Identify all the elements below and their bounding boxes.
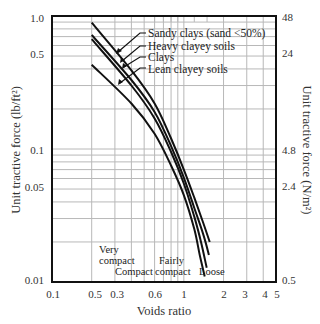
- zone-very-compact-line2: compact: [99, 255, 135, 266]
- y-tick-right: 4.8: [282, 144, 296, 156]
- y-tick-left: 0.01: [25, 274, 44, 286]
- x-tick: 0.6: [148, 288, 162, 300]
- tractive-force-chart: Sandy clays (sand <50%) Heavy clayey soi…: [0, 0, 320, 324]
- y-tick-right: 24: [282, 47, 294, 59]
- zone-very-compact-line1: Very: [99, 244, 120, 255]
- y-tick-right: 2.4: [282, 180, 296, 192]
- x-tick: 5: [274, 288, 280, 300]
- y-tick-left: 1.0: [30, 12, 44, 24]
- leader-sandy-clays: [118, 33, 146, 52]
- zone-fairly-compact-line1: Fairly: [159, 255, 185, 266]
- series-label-sandy-clays: Sandy clays (sand <50%): [148, 27, 265, 40]
- y-tick-right: 48: [282, 11, 294, 23]
- x-tick: 4: [262, 288, 268, 300]
- zone-loose: Loose: [199, 266, 225, 277]
- y-tick-right: 0.5: [282, 274, 296, 286]
- x-tick: 3: [242, 288, 248, 300]
- x-tick: 0.1: [46, 288, 60, 300]
- y-tick-left: 0.05: [25, 181, 45, 193]
- leader-heavy-clayey: [122, 46, 146, 61]
- x-tick: 2: [221, 288, 227, 300]
- x-axis-title: Voids ratio: [137, 304, 191, 318]
- zone-fairly-compact-line2: compact: [155, 266, 191, 277]
- x-tick: 1: [181, 288, 187, 300]
- series-label-lean-clayey-soils: Lean clayey soils: [148, 63, 228, 76]
- y-axis-title-left: Unit tractive force (lb/ft²): [9, 86, 23, 214]
- y-tick-left: 0.1: [30, 144, 44, 156]
- y-tick-left: 0.5: [30, 48, 44, 60]
- y-axis-title-right: Unit tractive force (N/m²): [300, 85, 314, 214]
- x-tick-labels: 0.1 0.5 0.3 0.6 1 2 3 4 5: [46, 288, 280, 300]
- leader-clays: [124, 57, 146, 67]
- arrowhead-icon: [118, 79, 123, 85]
- zone-compact: Compact: [115, 266, 153, 277]
- x-tick: 0.5: [88, 288, 102, 300]
- x-tick: 0.3: [110, 288, 124, 300]
